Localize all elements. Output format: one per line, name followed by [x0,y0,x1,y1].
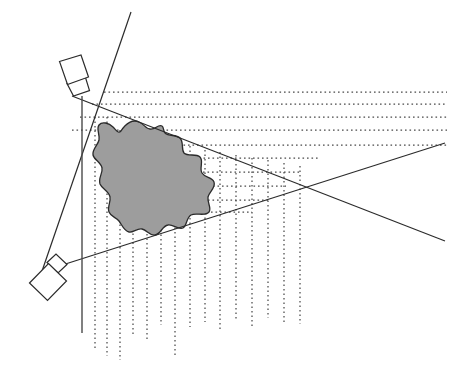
shaded-region [93,121,214,235]
sensor-group: upper sensorlower sensor [30,55,90,301]
shaded-region-layer [93,121,214,235]
upper-sensor[interactable]: upper sensor [60,55,90,96]
sensor-layer: upper sensorlower sensor [30,55,90,301]
sensor-wedge-diagram: upper sensorlower sensor [0,0,457,374]
solid-lines-layer [40,12,445,333]
figure-canvas: Two-sensor viewing wedge over an irregul… [0,0,457,374]
lower-sensor[interactable]: lower sensor [30,254,68,301]
